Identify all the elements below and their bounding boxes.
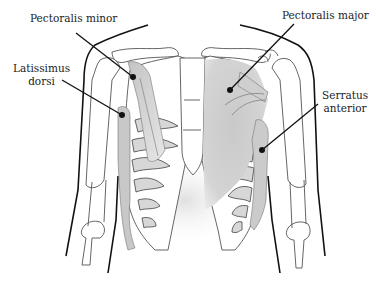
label-latissimus-dorsi-line1: Latissimus	[13, 62, 70, 75]
label-serratus-anterior: Serratus anterior	[322, 89, 368, 115]
label-latissimus-dorsi-line2: dorsi	[13, 75, 70, 88]
label-serratus-anterior-line2: anterior	[322, 102, 368, 115]
label-serratus-anterior-line1: Serratus	[322, 89, 368, 102]
label-pectoralis-minor: Pectoralis minor	[30, 12, 117, 25]
chest-anatomy-diagram	[0, 0, 376, 289]
label-latissimus-dorsi: Latissimus dorsi	[13, 62, 70, 88]
label-pectoralis-major: Pectoralis major	[282, 9, 369, 22]
